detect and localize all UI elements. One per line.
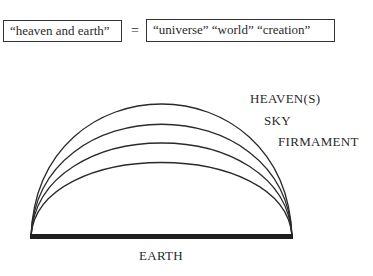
inner-arc [31,163,292,237]
earth-base-bar [30,234,293,239]
firmament-arc [31,143,292,236]
heavens-label: HEAVEN(S) [250,91,320,107]
sky-label: SKY [264,113,291,129]
earth-label: EARTH [139,248,183,264]
firmament-label: FIRMAMENT [278,134,359,150]
